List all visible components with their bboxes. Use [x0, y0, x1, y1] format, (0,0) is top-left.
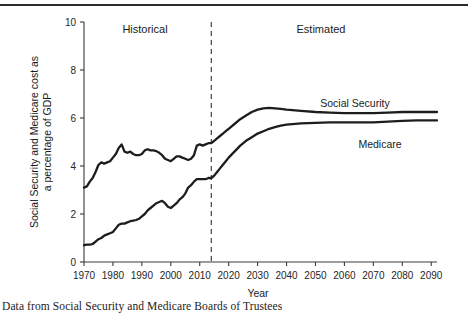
x-tick-label: 2090 — [420, 270, 443, 281]
x-tick-label: 2050 — [304, 270, 327, 281]
y-axis: 0246810 — [65, 17, 84, 268]
line-chart: 0246810 19701980199020002010202020302040… — [0, 0, 468, 320]
x-tick-label: 2000 — [160, 270, 183, 281]
x-tick-label: 2030 — [246, 270, 269, 281]
y-tick-label: 2 — [70, 209, 76, 220]
figure-caption: Data from Social Security and Medicare B… — [2, 300, 282, 312]
x-tick-label: 2060 — [333, 270, 356, 281]
x-axis-title: Year — [247, 287, 269, 299]
x-axis: 1970198019902000201020202030204020502060… — [73, 262, 443, 281]
x-tick-label: 2080 — [391, 270, 414, 281]
y-axis-title-line2: a percentage of GDP — [41, 93, 53, 192]
x-tick-label: 1980 — [102, 270, 125, 281]
x-tick-label: 2040 — [275, 270, 298, 281]
figure-container: 0246810 19701980199020002010202020302040… — [0, 0, 468, 320]
y-tick-label: 6 — [70, 113, 76, 124]
y-tick-label: 0 — [70, 257, 76, 268]
x-tick-label: 2010 — [189, 270, 212, 281]
x-tick-label: 2070 — [362, 270, 385, 281]
x-axis-ticks: 1970198019902000201020202030204020502060… — [73, 262, 443, 281]
historical-region-label: Historical — [122, 23, 167, 35]
y-tick-label: 8 — [70, 65, 76, 76]
series-label-medicare: Medicare — [358, 138, 401, 150]
x-tick-label: 1970 — [73, 270, 96, 281]
y-axis-title-line1: Social Security and Medicare cost as — [28, 56, 40, 228]
y-tick-label: 10 — [65, 17, 77, 28]
x-tick-label: 1990 — [131, 270, 154, 281]
y-tick-label: 4 — [70, 161, 76, 172]
x-tick-label: 2020 — [218, 270, 241, 281]
series-label-social-security: Social Security — [320, 97, 390, 109]
estimated-region-label: Estimated — [297, 23, 346, 35]
y-axis-ticks: 0246810 — [65, 17, 84, 268]
